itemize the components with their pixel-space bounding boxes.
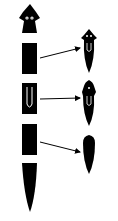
planarian-regeneration-diagram — [0, 0, 118, 221]
arrow-icon — [40, 98, 80, 99]
body-segment-1 — [22, 43, 37, 74]
regenerated-worm-1 — [81, 29, 97, 73]
arrow-icon — [40, 142, 80, 152]
body-segment-2-pharynx — [22, 83, 37, 114]
right-eye-icon — [90, 35, 92, 37]
regenerated-worm-2 — [82, 80, 96, 126]
body-segment-3 — [22, 124, 37, 155]
arrow-icon — [40, 48, 80, 58]
left-eye-icon — [86, 35, 88, 37]
eye-icon — [88, 87, 90, 89]
head-fragment — [19, 4, 40, 33]
tail-fragment — [22, 163, 37, 212]
regenerated-worm-3 — [83, 135, 95, 174]
